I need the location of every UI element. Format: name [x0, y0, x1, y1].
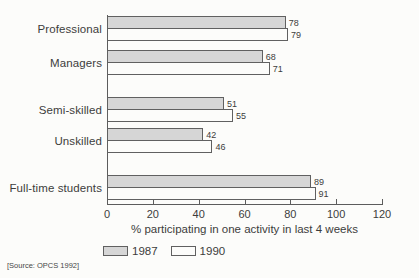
x-tick-120 — [382, 199, 383, 204]
value-label-1990-full-time-students: 91 — [319, 187, 329, 200]
legend-swatch-1990 — [171, 246, 196, 256]
x-tick-label-40: 40 — [182, 208, 216, 220]
x-tick-label-120: 120 — [365, 208, 399, 220]
x-tick-label-0: 0 — [90, 208, 124, 220]
bar-1990-managers — [107, 62, 270, 75]
x-tick-100 — [336, 199, 337, 204]
legend: 1987 1990 — [103, 245, 225, 257]
legend-swatch-1987 — [103, 246, 128, 256]
legend-label-1990: 1990 — [200, 245, 226, 257]
category-label-full-time-students: Full-time students — [0, 175, 102, 200]
category-label-semi-skilled: Semi-skilled — [0, 97, 102, 122]
bar-1990-unskilled — [107, 140, 212, 153]
x-axis-title: % participating in one activity in last … — [107, 223, 382, 235]
x-axis-line — [107, 204, 383, 205]
legend-label-1987: 1987 — [132, 245, 158, 257]
bar-1990-semi-skilled — [107, 109, 233, 122]
category-label-professional: Professional — [0, 16, 102, 41]
value-label-1990-unskilled: 46 — [215, 140, 225, 153]
survey-bar-chart-page: 020406080100120Professional7879Managers6… — [0, 0, 419, 278]
x-tick-label-80: 80 — [273, 208, 307, 220]
plot-area: 020406080100120Professional7879Managers6… — [0, 0, 419, 278]
x-tick-label-60: 60 — [228, 208, 262, 220]
source-note: [Source: OPCS 1992] — [7, 261, 79, 270]
value-label-1990-semi-skilled: 55 — [236, 109, 246, 122]
value-label-1990-professional: 79 — [291, 28, 301, 41]
legend-item-1987: 1987 — [103, 245, 158, 257]
bar-1990-professional — [107, 28, 288, 41]
x-tick-label-100: 100 — [319, 208, 353, 220]
value-label-1990-managers: 71 — [273, 62, 283, 75]
category-label-managers: Managers — [0, 50, 102, 75]
category-label-unskilled: Unskilled — [0, 128, 102, 153]
bar-1990-full-time-students — [107, 187, 316, 200]
legend-item-1990: 1990 — [171, 245, 226, 257]
x-tick-label-20: 20 — [136, 208, 170, 220]
